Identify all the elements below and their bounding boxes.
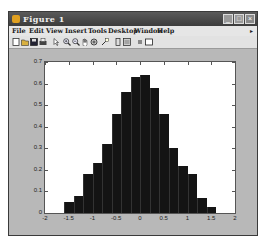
x-tick-mark [116,62,117,65]
zoom-in-icon[interactable] [63,38,71,46]
x-tick-label: 1.5 [203,215,219,221]
histogram-bar [169,148,179,213]
y-tick-label: 0.4 [28,123,42,129]
insert-colorbar-icon[interactable] [114,38,122,46]
menu-view[interactable]: View [46,26,63,36]
maximize-button[interactable]: □ [234,14,244,24]
y-tick-mark [45,191,48,192]
pan-hand-icon[interactable] [81,38,89,46]
x-tick-label: 1 [180,215,196,221]
y-tick-mark-right [232,170,235,171]
edit-plot-arrow-icon[interactable] [52,38,60,46]
figure-window: Figure 1 _ □ × File Edit View Insert Too… [8,11,258,236]
axes-plot-area[interactable] [44,61,236,214]
histogram-bar [121,92,131,213]
menu-insert[interactable]: Insert [65,26,87,36]
x-tick-label: -2 [37,215,53,221]
y-tick-mark [45,84,48,85]
y-tick-label: 0.1 [28,187,42,193]
menu-edit[interactable]: Edit [29,26,44,36]
y-tick-label: 0.6 [28,80,42,86]
x-tick-mark [211,62,212,65]
histogram-bar [64,202,74,213]
y-tick-mark [45,148,48,149]
matlab-figure-icon [12,15,20,23]
histogram-bar [188,174,198,213]
x-tick-label: -1.5 [61,215,77,221]
figure-toolbar [9,36,257,49]
histogram-bar [178,166,188,213]
y-tick-label: 0.2 [28,166,42,172]
data-cursor-icon[interactable] [101,38,109,46]
show-plot-tools-icon[interactable] [145,38,153,46]
histogram-bar [150,88,160,213]
new-figure-icon[interactable] [12,38,20,46]
menu-overflow-arrow[interactable]: ▸ [250,26,253,36]
print-icon[interactable] [39,38,47,46]
menu-help[interactable]: Help [157,26,174,36]
histogram-bar [197,198,207,213]
histogram-bar [102,144,112,213]
y-tick-label: 0.3 [28,144,42,150]
histogram-bar [207,207,217,213]
x-tick-mark [69,62,70,65]
histogram-bar [74,196,84,213]
y-tick-mark-right [232,127,235,128]
x-tick-label: 2 [227,215,243,221]
histogram-bar [159,114,169,213]
x-tick-label: 0 [132,215,148,221]
histogram-bar [131,77,141,213]
menu-tools[interactable]: Tools [88,26,107,36]
y-tick-mark [45,127,48,128]
x-tick-label: -1 [85,215,101,221]
histogram-bar [93,163,103,213]
x-tick-mark [45,62,46,65]
window-title: Figure 1 [23,12,65,26]
rotate-3d-icon[interactable] [90,38,98,46]
y-tick-mark [45,105,48,106]
histogram-bar [112,114,122,213]
zoom-out-icon[interactable] [72,38,80,46]
y-tick-mark [45,213,48,214]
x-tick-mark [93,62,94,65]
insert-legend-icon[interactable] [123,38,131,46]
x-tick-mark [188,62,189,65]
open-file-icon[interactable] [21,38,29,46]
y-tick-mark-right [232,84,235,85]
y-tick-mark-right [232,105,235,106]
save-icon[interactable] [30,38,38,46]
title-bar[interactable]: Figure 1 _ □ × [9,12,257,26]
histogram-bar [140,75,150,213]
y-tick-label: 0.7 [28,58,42,64]
x-tick-mark [164,62,165,65]
y-tick-mark-right [232,148,235,149]
y-tick-mark-right [232,213,235,214]
x-tick-mark [235,62,236,65]
histogram-bar [83,174,93,213]
hide-plot-tools-icon[interactable] [136,38,144,46]
minimize-button[interactable]: _ [223,14,233,24]
close-button[interactable]: × [245,14,255,24]
x-tick-label: -0.5 [108,215,124,221]
y-tick-label: 0.5 [28,101,42,107]
y-tick-mark [45,170,48,171]
x-tick-label: 0.5 [156,215,172,221]
menu-bar: File Edit View Insert Tools Desktop Wind… [9,26,257,36]
y-tick-mark-right [232,191,235,192]
x-tick-mark [140,62,141,65]
menu-file[interactable]: File [12,26,26,36]
